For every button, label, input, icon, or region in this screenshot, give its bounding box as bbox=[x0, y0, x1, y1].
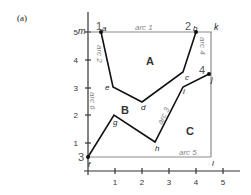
letter-f: f bbox=[88, 160, 91, 169]
upper-path-a-e-d-c-b bbox=[101, 32, 196, 102]
letter-l: l bbox=[212, 159, 214, 168]
diagram-canvas: 1 2 3 4 5 1 2 3 4 5 bbox=[0, 0, 251, 195]
y-tick-labels: 1 2 3 4 5 bbox=[74, 28, 79, 148]
arc-6-label: arc 6 bbox=[88, 92, 97, 110]
y-tick-label: 3 bbox=[74, 84, 79, 93]
x-tick-labels: 1 2 3 4 5 bbox=[113, 178, 226, 187]
y-tick-label: 1 bbox=[74, 139, 79, 148]
letter-h: h bbox=[155, 144, 160, 153]
y-tick-label: 2 bbox=[74, 111, 79, 120]
region-b-label: B bbox=[121, 104, 129, 116]
region-a-label: A bbox=[146, 55, 154, 67]
x-tick-label: 5 bbox=[221, 178, 226, 187]
node-f-dot bbox=[86, 155, 90, 159]
arc-1-label: arc 1 bbox=[135, 23, 153, 32]
letter-i: i bbox=[183, 87, 185, 96]
letter-k: k bbox=[214, 22, 219, 32]
y-tick-label: 4 bbox=[74, 56, 79, 65]
node-number-4: 4 bbox=[199, 64, 205, 76]
x-tick-label: 3 bbox=[167, 178, 172, 187]
letter-g: g bbox=[113, 118, 118, 127]
panel-label: (a) bbox=[17, 13, 27, 23]
x-tick-label: 2 bbox=[140, 178, 145, 187]
arc-3-label: arc 3 bbox=[156, 105, 172, 125]
arc-5-label: arc 5 bbox=[179, 148, 197, 157]
letter-m: m bbox=[78, 26, 86, 36]
region-c-label: C bbox=[186, 125, 194, 137]
letter-j: j bbox=[210, 75, 213, 84]
letter-e: e bbox=[105, 83, 110, 92]
diagram-figure: (a) 1 2 3 4 5 1 2 bbox=[0, 0, 251, 195]
node-number-3: 3 bbox=[78, 151, 84, 163]
letter-c: c bbox=[185, 73, 189, 82]
axes bbox=[84, 12, 240, 175]
arc-2-label: arc 2 bbox=[95, 45, 104, 63]
letter-d: d bbox=[141, 103, 146, 112]
x-tick-label: 4 bbox=[194, 178, 199, 187]
paths bbox=[88, 32, 209, 157]
arc-4-label: arc 4 bbox=[198, 37, 207, 55]
letter-b: b bbox=[193, 24, 198, 33]
letter-a: a bbox=[102, 24, 107, 33]
node-number-2: 2 bbox=[185, 20, 191, 32]
x-tick-label: 1 bbox=[113, 178, 118, 187]
